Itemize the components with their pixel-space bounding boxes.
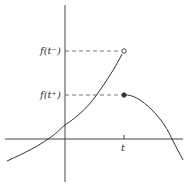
- right-curve: [124, 95, 183, 160]
- discontinuity-diagram: f(t⁻) f(t⁺) t: [0, 0, 193, 186]
- x-tick-label: t: [121, 143, 125, 153]
- graph: [0, 0, 193, 186]
- filled-circle-marker: [122, 93, 126, 97]
- right-limit-label: f(t⁺): [40, 90, 61, 100]
- left-limit-label: f(t⁻): [40, 46, 61, 56]
- open-circle-marker: [122, 49, 126, 53]
